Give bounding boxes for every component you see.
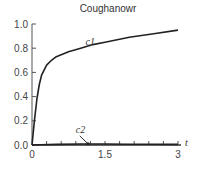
x-tick-label: 1.5: [98, 149, 112, 160]
annotations: c1c2: [76, 36, 95, 146]
series-group: [32, 30, 178, 145]
y-tick-label: 0.6: [14, 67, 28, 78]
x-tick-label: 0: [29, 149, 35, 160]
y-tick-label: 0.4: [14, 91, 28, 102]
series-line-c1: [32, 30, 178, 145]
annotation-c2: c2: [76, 124, 85, 135]
y-tick-label: 1.0: [14, 19, 28, 30]
x-axis: 01.53t: [29, 137, 188, 160]
y-tick-label: 0.2: [14, 115, 28, 126]
x-tick-label: 3: [175, 149, 181, 160]
y-tick-label: 0.0: [14, 140, 28, 151]
line-chart: Coughanowr 0.00.20.40.60.81.0 01.53t c1c…: [0, 0, 197, 173]
chart-title: Coughanowr: [80, 3, 137, 14]
y-tick-label: 0.8: [14, 43, 28, 54]
annotation-c1: c1: [86, 36, 95, 47]
x-axis-label: t: [185, 137, 188, 148]
